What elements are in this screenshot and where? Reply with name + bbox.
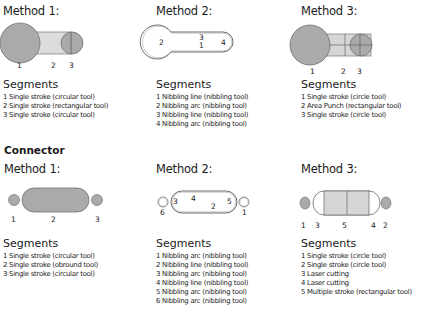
segment-item: 2 Single stroke (circle tool) bbox=[301, 261, 412, 270]
connector-method-3-segments-title: Segments bbox=[301, 237, 356, 250]
connector-method-3-label-3: 3 bbox=[315, 221, 320, 230]
segment-item: 5 Multiple stroke (rectangular tool) bbox=[301, 288, 412, 297]
segment-item: 1 Single stroke (circle tool) bbox=[301, 252, 412, 261]
connector-method-3-label-1: 1 bbox=[301, 221, 306, 230]
connector-method-3-label-2: 2 bbox=[383, 221, 388, 230]
connector-method-3-label-4: 4 bbox=[371, 221, 376, 230]
segment-item: 3 Laser cutting bbox=[301, 270, 412, 279]
segment-item: 4 Laser cutting bbox=[301, 279, 412, 288]
connector-method-3-label-5: 5 bbox=[342, 221, 347, 230]
connector-method-3-segments-list: 1 Single stroke (circle tool) 2 Single s… bbox=[301, 252, 412, 297]
